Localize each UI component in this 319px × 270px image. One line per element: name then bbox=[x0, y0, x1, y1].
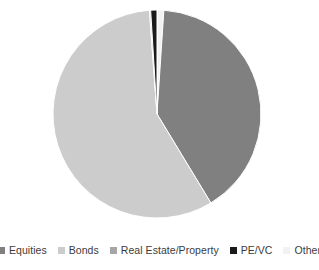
legend-swatch-icon bbox=[0, 247, 5, 254]
legend-swatch-icon bbox=[58, 247, 65, 254]
legend-item-pe-vc[interactable]: PE/VC bbox=[230, 244, 273, 256]
legend-label: Bonds bbox=[69, 244, 99, 256]
legend-item-equities[interactable]: Equities bbox=[0, 244, 47, 256]
pie-svg bbox=[0, 0, 319, 232]
legend-item-other[interactable]: Other bbox=[283, 244, 319, 256]
legend-label: Real Estate/Property bbox=[121, 244, 219, 256]
pie-slice-group bbox=[53, 10, 261, 218]
chart-legend: EquitiesBondsReal Estate/PropertyPE/VCOt… bbox=[0, 240, 319, 260]
legend-swatch-icon bbox=[283, 247, 290, 254]
legend-label: Other bbox=[294, 244, 319, 256]
pie-chart-figure: EquitiesBondsReal Estate/PropertyPE/VCOt… bbox=[0, 0, 319, 270]
legend-item-bonds[interactable]: Bonds bbox=[58, 244, 99, 256]
legend-label: PE/VC bbox=[241, 244, 273, 256]
plot-area bbox=[0, 0, 319, 232]
legend-swatch-icon bbox=[110, 247, 117, 254]
legend-item-real-estate-property[interactable]: Real Estate/Property bbox=[110, 244, 219, 256]
legend-swatch-icon bbox=[230, 247, 237, 254]
legend-label: Equities bbox=[9, 244, 47, 256]
